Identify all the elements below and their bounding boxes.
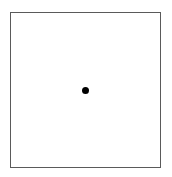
center-dot bbox=[82, 87, 89, 94]
